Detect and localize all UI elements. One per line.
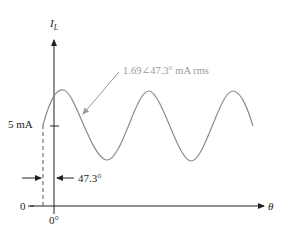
origin-label: 0 [20,200,26,212]
zero-degree-label: 0° [49,214,59,226]
sine-waveform [43,90,253,161]
y-axis-label: IL [49,17,59,32]
x-axis-label: θ [268,200,274,212]
phase-shift-label: 47.3° [78,172,102,184]
callout-label: 1.69∠47.3° mA rms [123,65,209,76]
callout-leader [83,72,119,114]
dc-level-label: 5 mA [8,118,33,130]
waveform-diagram: IL θ 0 0° 5 mA 47.3° 1.69∠47.3° mA rms [0,0,291,237]
